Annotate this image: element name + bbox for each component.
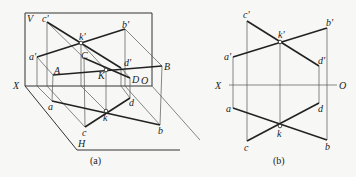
label-d-a: d (129, 97, 135, 108)
label-d-prime-a: d' (124, 57, 132, 68)
label-a-a: a (48, 101, 53, 112)
label-X-a: X (12, 80, 20, 91)
label-K: K (97, 70, 106, 81)
label-b-prime-a: b' (122, 19, 130, 30)
label-B: B (164, 61, 170, 72)
line-cd-b (247, 103, 319, 141)
line-c-prime-d-prime-b (247, 21, 319, 66)
figure-a: V X O H c' b' k' a' d' C K D A B a d k c… (12, 13, 200, 167)
label-A: A (53, 65, 61, 76)
caption-a: (a) (90, 155, 101, 167)
projector-a-h (52, 75, 53, 101)
label-k-prime-b: k' (278, 29, 285, 40)
label-b-a: b (158, 125, 163, 136)
label-c-prime-b: c' (243, 9, 250, 20)
label-c-b: c (244, 142, 249, 153)
label-d-b: d (318, 103, 324, 114)
label-C: C (81, 50, 88, 61)
point-K (104, 68, 108, 72)
label-X-b: X (214, 80, 222, 91)
projector-c-h (84, 58, 85, 127)
label-O-b: O (339, 80, 346, 91)
projector-a-space (37, 57, 53, 75)
label-c-prime-a: c' (42, 13, 49, 24)
label-a-b: a (226, 103, 231, 114)
label-D: D (131, 74, 140, 85)
figure-b: X O c' b' k' a' d' a d k c b (b) (214, 9, 346, 167)
label-d-prime-b: d' (318, 55, 326, 66)
label-b-prime-b: b' (326, 17, 334, 28)
label-c-a: c (82, 127, 87, 138)
projector-a-x (37, 86, 52, 101)
label-H: H (77, 138, 86, 149)
label-V: V (27, 13, 35, 24)
point-k-prime-b (278, 40, 282, 44)
label-a-prime-a: a' (29, 51, 37, 62)
label-b-b: b (325, 141, 330, 152)
projection-diagram: V X O H c' b' k' a' d' C K D A B a d k c… (0, 0, 356, 177)
label-O-a: O (141, 75, 148, 86)
caption-b: (b) (273, 155, 285, 167)
label-a-prime-b: a' (224, 51, 232, 62)
label-k-prime-a: k' (79, 31, 86, 42)
label-k-b: k (277, 128, 282, 139)
label-k-a: k (103, 112, 108, 123)
